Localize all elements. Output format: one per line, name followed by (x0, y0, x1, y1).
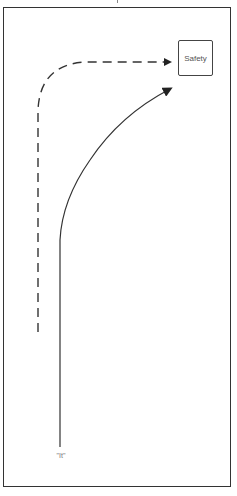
safety-label: Safety (184, 54, 207, 63)
it-origin-label: "It" (49, 452, 73, 459)
dashed-path-arrow (38, 62, 170, 332)
solid-path-arrow (60, 89, 170, 447)
safety-node: Safety (178, 40, 213, 76)
